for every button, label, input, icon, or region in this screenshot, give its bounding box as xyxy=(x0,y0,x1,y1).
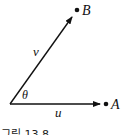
vector-v-arrow xyxy=(10,17,72,104)
vector-angle-diagram: B A v u θ 그림 13.8 xyxy=(0,0,123,135)
angle-theta-label: θ xyxy=(22,88,28,102)
point-b-label: B xyxy=(82,3,91,18)
vector-v-label: v xyxy=(33,44,39,59)
figure-caption: 그림 13.8 xyxy=(1,128,49,135)
point-a-label: A xyxy=(110,97,120,112)
point-a-dot xyxy=(104,102,109,107)
point-b-dot xyxy=(75,8,80,13)
vector-u-label: u xyxy=(55,105,62,120)
